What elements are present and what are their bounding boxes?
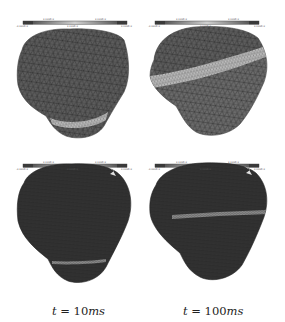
mesh-rendering [0,143,142,288]
colorbar-max-label: x.xxxE-x [121,25,132,28]
colorbar-low-label: x.xxxE-x [176,161,187,164]
caption-eq: = [188,304,205,318]
colorbar-low-label: x.xxxE-x [43,18,54,21]
colorbar-mid-label: x.xxxE-x [200,168,211,171]
mesh-surface [17,164,131,283]
colorbar-min-label: -x.xxxE-x [16,25,28,28]
colorbar [23,21,127,24]
caption-unit: ms [88,304,105,318]
mesh-rendering [0,0,142,140]
mesh-rendering [142,143,285,288]
caption-left: t = 10ms [52,304,105,318]
colorbar-high-label: x.xxxE-x [228,18,239,21]
panel-top-left: -x.xxxE-x x.xxxE-x x.xxxE-x x.xxxE-x x.x… [0,0,142,140]
caption-unit: ms [227,304,244,318]
colorbar-high-label: x.xxxE-x [95,18,106,21]
colorbar-low-label: x.xxxE-x [43,161,54,164]
colorbar-min-label: -x.xxxE-x [148,25,160,28]
colorbar-low-label: x.xxxE-x [176,18,187,21]
caption-value: 10 [74,304,89,318]
colorbar-high-label: x.xxxE-x [228,161,239,164]
figure: -x.xxxE-x x.xxxE-x x.xxxE-x x.xxxE-x x.x… [0,0,285,322]
panel-top-right: -x.xxxE-x x.xxxE-x x.xxxE-x x.xxxE-x x.x… [142,0,284,140]
panel-bottom-right: -x.xxxE-x x.xxxE-x x.xxxE-x x.xxxE-x x.x… [142,143,284,283]
caption-eq: = [57,304,74,318]
colorbar-mid-label: x.xxxE-x [200,25,211,28]
colorbar-max-label: x.xxxE-x [254,25,265,28]
colorbar-max-label: x.xxxE-x [254,168,265,171]
mesh-surface [150,163,267,280]
panel-bottom-left: -x.xxxE-x x.xxxE-x x.xxxE-x x.xxxE-x x.x… [0,143,142,283]
colorbar-mid-label: x.xxxE-x [67,168,78,171]
colorbar-min-label: -x.xxxE-x [16,168,28,171]
colorbar-mid-label: x.xxxE-x [67,25,78,28]
mesh-rendering [142,0,285,140]
colorbar [155,21,259,24]
caption-right: t = 100ms [183,304,243,318]
colorbar-high-label: x.xxxE-x [95,161,106,164]
colorbar-min-label: -x.xxxE-x [148,168,160,171]
colorbar-max-label: x.xxxE-x [121,168,132,171]
mesh-surface [17,29,128,138]
caption-value: 100 [205,304,227,318]
